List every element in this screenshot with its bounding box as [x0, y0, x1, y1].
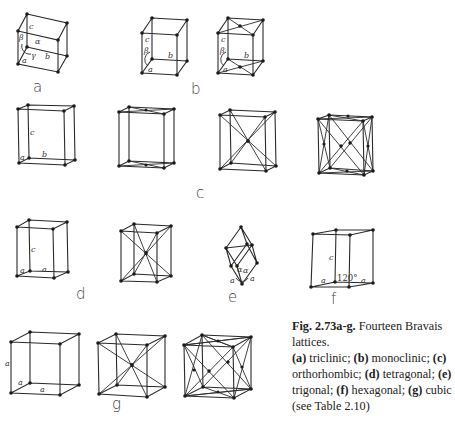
caption-body: (a) triclinic; (b) monoclinic; (c) ortho…: [292, 350, 452, 398]
panel-label-e: e: [228, 288, 237, 306]
caption-key-g: (g): [408, 383, 422, 397]
lattice-monoclinic-p: c β b a: [140, 16, 189, 77]
label-a: a: [250, 274, 255, 283]
lattice-orthorhombic-i: [218, 108, 278, 173]
lattice-tetragonal-i: d: [76, 222, 173, 303]
label-alpha: α: [35, 37, 41, 46]
label-c: c: [29, 22, 34, 31]
label-a: a: [5, 359, 10, 368]
label-c: c: [221, 35, 226, 44]
label-a: a: [18, 378, 23, 387]
label-b: b: [168, 51, 173, 60]
label-a: a: [361, 276, 366, 285]
caption-text-b: monoclinic;: [369, 351, 433, 365]
lattice-trigonal-r: α α a a e: [224, 225, 259, 306]
caption-key-d: (d): [365, 367, 380, 381]
label-a: a: [22, 56, 27, 65]
label-c: c: [31, 245, 36, 254]
label-alpha: α: [243, 266, 249, 275]
label-c: c: [145, 35, 150, 44]
label-c: c: [329, 253, 334, 262]
lattice-cubic-i: g: [96, 332, 167, 413]
lattice-orthorhombic-c: [117, 105, 176, 170]
caption-key-c: (c): [433, 351, 447, 365]
figure-number: Fig. 2.73a-g.: [292, 319, 356, 333]
caption-text-g: cubic: [422, 383, 451, 397]
label-b: b: [244, 51, 249, 60]
label-a: a: [148, 65, 153, 74]
panel-label-d: d: [76, 285, 86, 303]
figure-caption: Fig. 2.73a-g. Fourteen Bravais lattices.…: [292, 318, 452, 414]
lattice-orthorhombic-f: c: [196, 113, 375, 202]
caption-key-f: (f): [336, 383, 348, 397]
label-b: b: [42, 150, 47, 159]
panel-label-c: c: [196, 184, 204, 202]
caption-text-f: hexagonal;: [349, 383, 409, 397]
caption-reference: (see Table 2.10): [292, 398, 452, 414]
lattice-cubic-p: a a a: [5, 330, 81, 397]
label-gamma: γ: [31, 51, 36, 60]
label-beta: β: [219, 46, 225, 55]
label-beta: β: [18, 33, 24, 42]
label-a: a: [20, 266, 25, 275]
panel-label-a: a: [33, 78, 42, 96]
label-a: a: [223, 65, 228, 74]
caption-text-a: triclinic;: [306, 351, 353, 365]
caption-text-e: trigonal;: [292, 383, 336, 397]
label-a: a: [20, 153, 25, 162]
label-c: c: [30, 128, 35, 137]
lattice-tetragonal-p: c a a: [15, 218, 70, 280]
caption-key-a: (a): [292, 351, 306, 365]
caption-key-b: (b): [354, 351, 369, 365]
caption-text-c: orthorhombic;: [292, 367, 365, 381]
label-angle-120: 120°: [337, 273, 357, 283]
lattice-monoclinic-c: c β b a b: [191, 16, 265, 98]
panel-label-f: f: [331, 290, 337, 308]
lattice-triclinic-p: c β α γ b a a: [16, 12, 69, 96]
lattice-hexagonal-p: c a a 120° f: [309, 228, 375, 308]
label-a: a: [40, 385, 45, 394]
label-a: a: [42, 265, 47, 274]
lattice-cubic-f: [182, 333, 253, 400]
caption-key-e: (e): [438, 367, 452, 381]
label-beta: β: [143, 46, 149, 55]
label-a: a: [230, 276, 235, 285]
panel-label-b: b: [191, 80, 201, 98]
caption-text-d: tetragonal;: [380, 367, 438, 381]
caption-heading: Fig. 2.73a-g. Fourteen Bravais lattices.: [292, 318, 452, 350]
lattice-orthorhombic-p: c a b: [16, 103, 77, 167]
label-b: b: [45, 52, 50, 61]
panel-label-g: g: [112, 395, 121, 413]
label-a: a: [321, 276, 326, 285]
